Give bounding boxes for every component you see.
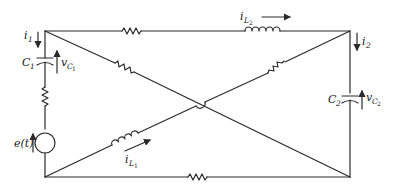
c2-label: C 2 bbox=[328, 93, 341, 108]
bottom-branch bbox=[45, 174, 350, 180]
right-branch bbox=[342, 31, 358, 177]
svg-text:e(t): e(t) bbox=[14, 137, 34, 150]
il2-label: i L 2 bbox=[240, 10, 290, 26]
resistor-diag1 bbox=[115, 61, 134, 73]
voltage-source bbox=[35, 133, 55, 153]
resistor-top bbox=[122, 28, 141, 34]
svg-text:i: i bbox=[240, 10, 244, 23]
svg-text:1: 1 bbox=[30, 62, 35, 71]
source-label: e(t) bbox=[14, 134, 34, 152]
inductor-l1 bbox=[112, 131, 138, 145]
svg-text:i: i bbox=[125, 153, 129, 166]
resistor-diag2 bbox=[268, 61, 284, 73]
circuit-diagram: i L 2 i 1 C 1 v C 1 e(t) bbox=[0, 0, 396, 193]
i2-label: i 2 bbox=[357, 33, 371, 50]
svg-text:2: 2 bbox=[249, 19, 253, 26]
i1-label: i 1 bbox=[24, 29, 38, 47]
resistor-bottom bbox=[188, 174, 207, 180]
svg-text:2: 2 bbox=[377, 100, 381, 107]
svg-text:i: i bbox=[24, 29, 28, 42]
vc1-label: v C 1 bbox=[57, 51, 76, 73]
inductor-l2 bbox=[245, 27, 280, 31]
svg-text:2: 2 bbox=[365, 41, 371, 50]
il1-label: i L 1 bbox=[125, 140, 150, 169]
top-branch bbox=[45, 27, 350, 34]
svg-text:1: 1 bbox=[28, 35, 33, 44]
resistor-left bbox=[42, 87, 48, 106]
vc2-label: v C 2 bbox=[362, 91, 381, 109]
svg-text:1: 1 bbox=[134, 162, 138, 169]
svg-text:1: 1 bbox=[72, 65, 76, 72]
left-branch bbox=[35, 31, 55, 177]
svg-text:i: i bbox=[362, 35, 366, 48]
svg-text:2: 2 bbox=[335, 99, 341, 108]
c1-label: C 1 bbox=[22, 56, 35, 71]
